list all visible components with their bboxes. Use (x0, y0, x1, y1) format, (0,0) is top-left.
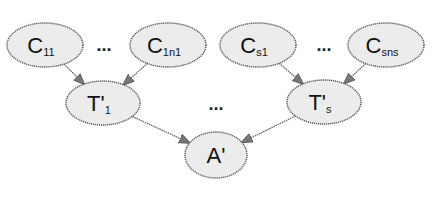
edge-cs1-to-ts (279, 63, 303, 84)
node-csns: Csns (348, 23, 424, 67)
node-t1: T'1 (66, 81, 140, 125)
node-a: A' (185, 132, 247, 178)
diagram-canvas: C11C1n1Cs1CsnsT'1T'sA' ... ... ... (0, 0, 432, 200)
ellipsis-middle: ... (208, 94, 223, 114)
node-ts: T's (287, 80, 361, 124)
ellipsis-right: ... (316, 35, 331, 55)
node-shape (348, 23, 424, 67)
node-shape (7, 23, 83, 67)
edge-ts-to-a (242, 116, 296, 142)
node-shape (220, 23, 296, 67)
node-shape (130, 23, 206, 67)
node-c1n1: C1n1 (130, 23, 206, 67)
node-label: A' (207, 143, 226, 168)
edge-c1n1-to-t1 (124, 63, 148, 84)
edge-c11-to-t1 (64, 64, 84, 84)
node-c11: C11 (7, 23, 83, 67)
ellipsis-left: ... (96, 35, 111, 55)
edge-csns-to-ts (344, 64, 366, 84)
edge-t1-to-a (132, 116, 189, 142)
node-cs1: Cs1 (220, 23, 296, 67)
